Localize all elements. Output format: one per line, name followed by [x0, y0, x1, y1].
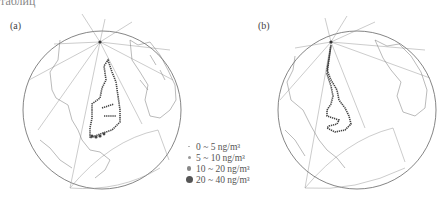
legend-item: 0 ~ 5 ng/m³	[182, 141, 250, 152]
legend-dot-icon	[188, 156, 191, 159]
legend-item: 10 ~ 20 ng/m³	[182, 163, 250, 174]
legend-item: 20 ~ 40 ng/m³	[182, 174, 250, 185]
legend-dot-icon	[187, 166, 192, 171]
globe-map-a	[20, 0, 190, 198]
legend-item: 5 ~ 10 ng/m³	[182, 152, 250, 163]
concentration-legend: 0 ~ 5 ng/m³ 5 ~ 10 ng/m³ 10 ~ 20 ng/m³ 2…	[182, 141, 250, 185]
legend-dot-icon	[188, 146, 190, 148]
legend-dot-icon	[186, 176, 193, 183]
panel-label-b: (b)	[258, 20, 270, 31]
globe-map-b	[275, 0, 444, 198]
